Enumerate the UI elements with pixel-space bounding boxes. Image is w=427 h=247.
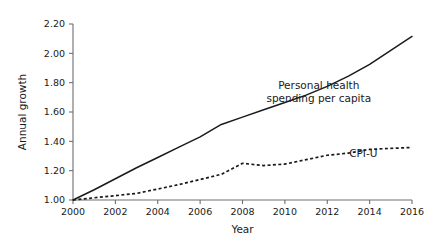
x-tick-label: 2014 xyxy=(358,206,382,217)
x-tick-label: 2002 xyxy=(103,206,127,217)
x-axis: 200020022004200620082010201220142016 Yea… xyxy=(61,200,424,235)
x-tick-label: 2016 xyxy=(400,206,424,217)
series-label-line: CPI-U xyxy=(349,147,377,159)
series-line-personal-health-spending xyxy=(73,36,412,200)
series-label-cpi-u: CPI-U xyxy=(349,147,377,159)
series-label-personal-health-spending: Personal healthspending per capita xyxy=(266,79,371,104)
y-axis-title: Annual growth xyxy=(16,74,28,150)
x-axis-title: Year xyxy=(230,223,254,235)
chart-container: 1.001.201.401.601.802.002.20 Annual grow… xyxy=(0,0,427,247)
x-tick-label: 2000 xyxy=(61,206,85,217)
x-tick-label: 2010 xyxy=(273,206,297,217)
y-tick-label: 1.20 xyxy=(44,165,65,176)
y-tick-label: 1.00 xyxy=(44,194,65,205)
series-label-line: Personal health xyxy=(278,79,359,91)
y-tick-label: 2.00 xyxy=(44,48,65,59)
y-tick-label: 2.20 xyxy=(44,18,65,29)
y-tick-label: 1.40 xyxy=(44,136,65,147)
x-tick-label: 2012 xyxy=(315,206,339,217)
y-axis: 1.001.201.401.601.802.002.20 Annual grow… xyxy=(16,18,73,205)
x-tick-label: 2006 xyxy=(188,206,212,217)
y-axis-ticks: 1.001.201.401.601.802.002.20 xyxy=(44,18,73,205)
y-tick-label: 1.60 xyxy=(44,106,65,117)
x-tick-label: 2008 xyxy=(230,206,254,217)
y-tick-label: 1.80 xyxy=(44,77,65,88)
x-axis-ticks: 200020022004200620082010201220142016 xyxy=(61,200,424,217)
data-series-group xyxy=(73,36,412,200)
series-annotation-group: Personal healthspending per capitaCPI-U xyxy=(266,79,377,158)
annual-growth-line-chart: 1.001.201.401.601.802.002.20 Annual grow… xyxy=(0,0,427,247)
series-label-line: spending per capita xyxy=(266,92,371,104)
x-tick-label: 2004 xyxy=(146,206,170,217)
